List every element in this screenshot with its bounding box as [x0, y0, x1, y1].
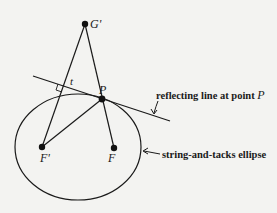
segment-g-prime-f-prime	[42, 24, 85, 147]
arrow-icon	[143, 148, 160, 154]
point-g-prime	[82, 21, 88, 27]
reflecting-line-label: reflecting line at point P	[156, 88, 265, 102]
point-f-prime	[39, 144, 45, 150]
label-f: F	[107, 151, 116, 165]
reflecting-line-text: reflecting line at point	[156, 90, 257, 101]
reflecting-line-point: P	[256, 88, 265, 102]
reflection-diagram: G' P F' F t reflecting line at point P s…	[0, 0, 277, 213]
label-g-prime: G'	[90, 17, 102, 31]
arrow-icon	[151, 101, 158, 114]
ellipse-label: string-and-tacks ellipse	[162, 149, 266, 160]
label-t: t	[70, 75, 74, 87]
string-and-tacks-ellipse	[15, 94, 141, 200]
label-f-prime: F'	[39, 151, 50, 165]
label-p: P	[98, 83, 107, 97]
